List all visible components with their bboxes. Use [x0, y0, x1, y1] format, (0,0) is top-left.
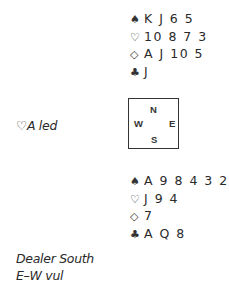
north-clubs-cards: J — [144, 64, 149, 79]
club-icon: ♣ — [130, 65, 144, 82]
north-spades: ♠K J 6 5 — [130, 11, 208, 29]
heart-icon: ♡ — [130, 30, 144, 47]
south-diamonds-cards: 7 — [144, 208, 153, 223]
spade-icon: ♠ — [130, 174, 144, 191]
south-hand: ♠A 9 8 4 3 2 ♡J 9 4 ◇7 ♣A Q 8 — [130, 173, 229, 244]
south-diamonds: ◇7 — [130, 208, 229, 226]
south-hearts: ♡J 9 4 — [130, 191, 229, 209]
compass-south: S — [151, 134, 157, 145]
south-clubs-cards: A Q 8 — [144, 226, 186, 241]
compass-box: N W E S — [128, 98, 179, 149]
south-clubs: ♣A Q 8 — [130, 226, 229, 244]
north-diamonds: ◇A J 10 5 — [130, 46, 208, 64]
opening-lead: ♡A led — [16, 118, 57, 133]
north-hearts-cards: 10 8 7 3 — [144, 29, 208, 44]
deal-notes: Dealer South E–W vul — [16, 250, 94, 284]
club-icon: ♣ — [130, 227, 144, 244]
north-diamonds-cards: A J 10 5 — [144, 46, 204, 61]
compass-north: N — [150, 104, 157, 115]
heart-icon: ♡ — [130, 192, 144, 209]
south-spades-cards: A 9 8 4 3 2 — [144, 173, 229, 188]
spade-icon: ♠ — [130, 12, 144, 29]
north-clubs: ♣J — [130, 64, 208, 82]
compass-west: W — [134, 118, 143, 129]
north-spades-cards: K J 6 5 — [144, 11, 194, 26]
dealer-text: Dealer South — [16, 250, 94, 267]
compass-east: E — [169, 118, 175, 129]
south-hearts-cards: J 9 4 — [144, 191, 179, 206]
north-hearts: ♡10 8 7 3 — [130, 29, 208, 47]
diamond-icon: ◇ — [130, 47, 144, 64]
diamond-icon: ◇ — [130, 209, 144, 226]
south-spades: ♠A 9 8 4 3 2 — [130, 173, 229, 191]
north-hand: ♠K J 6 5 ♡10 8 7 3 ◇A J 10 5 ♣J — [130, 11, 208, 82]
vulnerability-text: E–W vul — [16, 267, 94, 284]
